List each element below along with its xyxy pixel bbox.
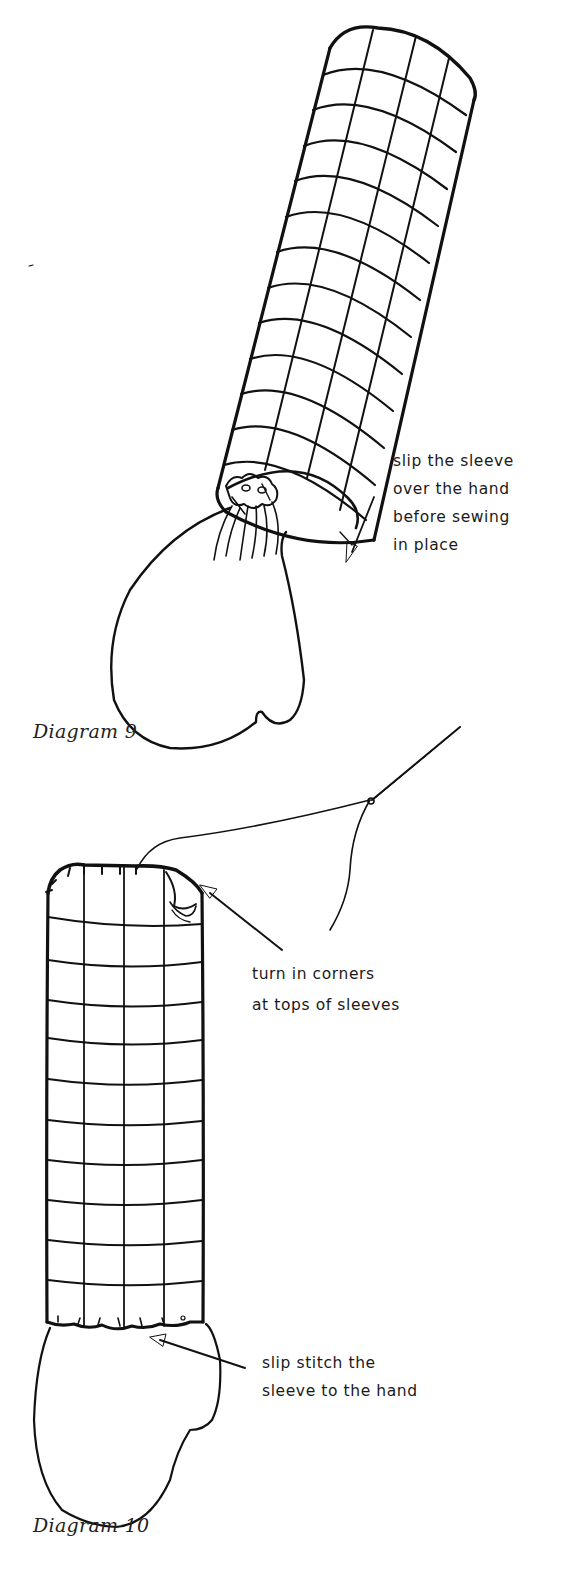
needle-icon [368,727,460,804]
instruction-illustrations [0,0,566,1582]
diagram-10-annotation-top: turn in corners at tops of sleeves [252,959,400,1021]
sleeve-grid-columns-9 [265,30,449,510]
annotation-line: in place [393,531,514,559]
annotation-line: at tops of sleeves [252,990,400,1021]
mitten-hand-10 [34,1324,220,1527]
annotation-line: sleeve to the hand [262,1377,418,1405]
arrow-up-left-icon [200,885,282,950]
sleeve-grid-rings-10 [48,917,202,1285]
diagram-9-annotation: slip the sleeve over the hand before sew… [393,447,514,559]
diagram-10-figure [34,727,460,1527]
annotation-line: over the hand [393,475,514,503]
diagram-10-caption: Diagram 10 [33,1514,149,1536]
annotation-line: before sewing [393,503,514,531]
diagram-10-annotation-bottom: slip stitch the sleeve to the hand [262,1349,418,1405]
sleeve-grid-columns-10 [84,866,164,1328]
mitten-hand-9 [111,474,304,748]
diagram-9-caption: Diagram 9 [33,720,137,742]
annotation-line: slip the sleeve [393,447,514,475]
scan-speck [29,265,33,266]
annotation-line: slip stitch the [262,1349,418,1377]
diagram-9-figure [29,27,475,749]
arrow-left-icon [150,1334,245,1368]
annotation-line: turn in corners [252,959,400,990]
